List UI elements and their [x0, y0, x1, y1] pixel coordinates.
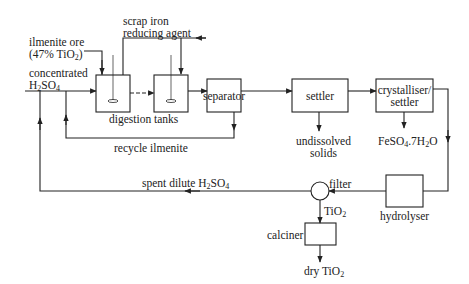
ferrous-sulfate-label: FeSO4.7H2O — [378, 135, 437, 147]
scrap-iron-label: scrap iron reducing agent — [123, 15, 191, 39]
concentrated-acid-label: concentrated H2SO4 — [29, 67, 88, 91]
filter-label: filter — [329, 178, 351, 190]
separator-label: separator — [207, 79, 241, 112]
hydrolyser-box — [386, 175, 423, 207]
undissolved-solids-label: undissolved solids — [296, 135, 351, 159]
settler-label: settler — [292, 79, 348, 112]
filter-circle — [311, 182, 329, 200]
digestion-tanks-label: digestion tanks — [109, 113, 178, 125]
dry-tio2-label: dry TiO2 — [304, 265, 344, 277]
crystalliser-label: crystalliser/ settler — [376, 79, 433, 112]
hydrolyser-label: hydrolyser — [380, 210, 429, 222]
recycle-ilmenite-label: recycle ilmenite — [114, 142, 188, 154]
calciner-label: calciner — [267, 229, 303, 241]
calciner-box — [305, 223, 336, 245]
spent-acid-label: spent dilute H2SO4 — [142, 177, 229, 189]
tio2-label: TiO2 — [324, 205, 346, 217]
ilmenite-ore-label: ilmenite ore (47% TiO2) — [29, 36, 84, 60]
